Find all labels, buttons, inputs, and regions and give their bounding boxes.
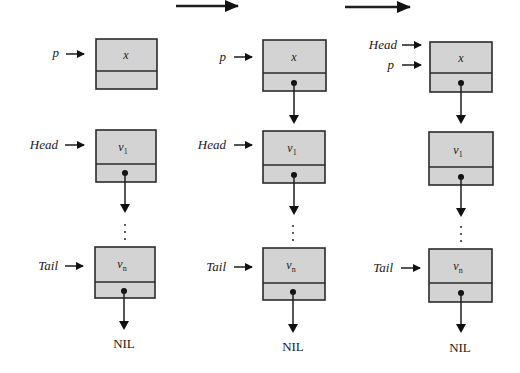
node-value: x	[122, 48, 129, 62]
column-2: x p v1 Head vn Tail	[197, 40, 326, 354]
ellipsis-icon	[124, 224, 126, 240]
node-subscript: 1	[459, 150, 463, 159]
pointer-label-tail: Tail	[206, 259, 226, 274]
node-v1: v1	[96, 130, 156, 210]
nil-label: NIL	[449, 340, 471, 355]
pointer-label-tail: Tail	[38, 258, 58, 273]
node-value: x	[290, 50, 297, 64]
pointer-label-head: Head	[197, 137, 227, 152]
node-x: x	[96, 39, 157, 89]
column-3: x Head p v1 vn Tail	[368, 37, 493, 355]
pointer-label-p: p	[52, 45, 60, 60]
pointer-label-tail: Tail	[373, 260, 393, 275]
ellipsis-icon	[460, 226, 462, 242]
node-subscript: n	[459, 266, 463, 275]
node-x: x	[430, 42, 492, 121]
pointer-label-head: Head	[29, 137, 59, 152]
node-v1: v1	[263, 131, 325, 212]
node-vn: vn	[263, 248, 325, 330]
pointer-label-head: Head	[368, 37, 398, 52]
node-v1: v1	[429, 132, 493, 214]
node-vn: vn	[429, 249, 492, 330]
pointer-label-p: p	[387, 57, 395, 72]
pointer-label-p: p	[219, 49, 227, 64]
node-x: x	[263, 40, 326, 121]
linked-list-diagram: x p v1 Head vn Tail NIL	[0, 0, 520, 373]
node-value: x	[457, 51, 464, 65]
column-1: x p v1 Head vn Tail NIL	[29, 39, 157, 351]
node-subscript: 1	[124, 147, 128, 156]
node-vn: vn	[95, 247, 155, 327]
ellipsis-icon	[292, 225, 294, 241]
node-subscript: 1	[293, 148, 297, 157]
nil-label: NIL	[113, 336, 135, 351]
nil-label: NIL	[282, 339, 304, 354]
node-subscript: n	[123, 264, 127, 273]
node-subscript: n	[292, 265, 296, 274]
